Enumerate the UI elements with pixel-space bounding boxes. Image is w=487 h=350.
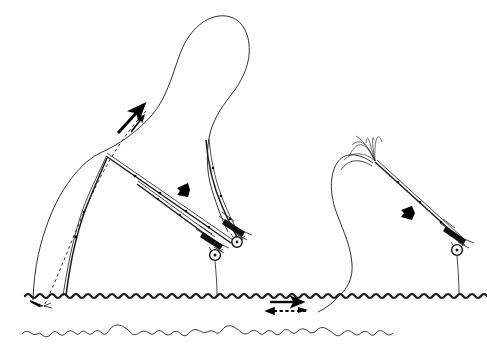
figure-root xyxy=(0,0,487,350)
casting-diagram-svg xyxy=(0,0,487,350)
